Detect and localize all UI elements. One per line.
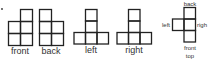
left-cell <box>86 33 98 45</box>
top-right-label: righ <box>197 22 207 28</box>
left-cell <box>97 33 109 45</box>
back-cell <box>40 34 52 46</box>
front-view <box>9 10 33 46</box>
right-view <box>117 10 152 45</box>
front-view-label: front <box>11 46 30 56</box>
left-cell <box>86 21 98 33</box>
top-front-label: front <box>184 45 196 51</box>
back-cell <box>40 10 52 22</box>
top-view <box>173 8 196 43</box>
front-cell <box>21 10 33 22</box>
top-cell <box>184 19 196 31</box>
right-cell <box>129 10 141 22</box>
top-cell <box>173 19 185 31</box>
left-cell <box>74 33 86 45</box>
front-cell <box>9 34 21 46</box>
top-view-label: top <box>186 53 195 59</box>
corner-dot <box>1 8 3 10</box>
front-cell <box>9 22 21 34</box>
right-cell <box>129 33 141 45</box>
top-left-label: left <box>162 22 170 28</box>
back-view-label: back <box>41 46 61 56</box>
back-cell <box>40 22 52 34</box>
right-cell <box>129 21 141 33</box>
right-view-label: right <box>125 45 143 55</box>
left-view <box>74 10 109 45</box>
top-back-label: back <box>184 1 198 7</box>
left-view-label: left <box>85 45 98 55</box>
left-cell <box>86 10 98 22</box>
top-cell <box>184 8 196 20</box>
views-diagram: front back left right back left righ fro… <box>0 0 210 61</box>
right-cell <box>140 33 152 45</box>
top-cell <box>184 31 196 43</box>
front-cell <box>21 22 33 34</box>
back-cell <box>52 34 64 46</box>
right-cell <box>117 33 129 45</box>
back-cell <box>52 22 64 34</box>
back-view <box>40 10 64 46</box>
front-cell <box>21 34 33 46</box>
